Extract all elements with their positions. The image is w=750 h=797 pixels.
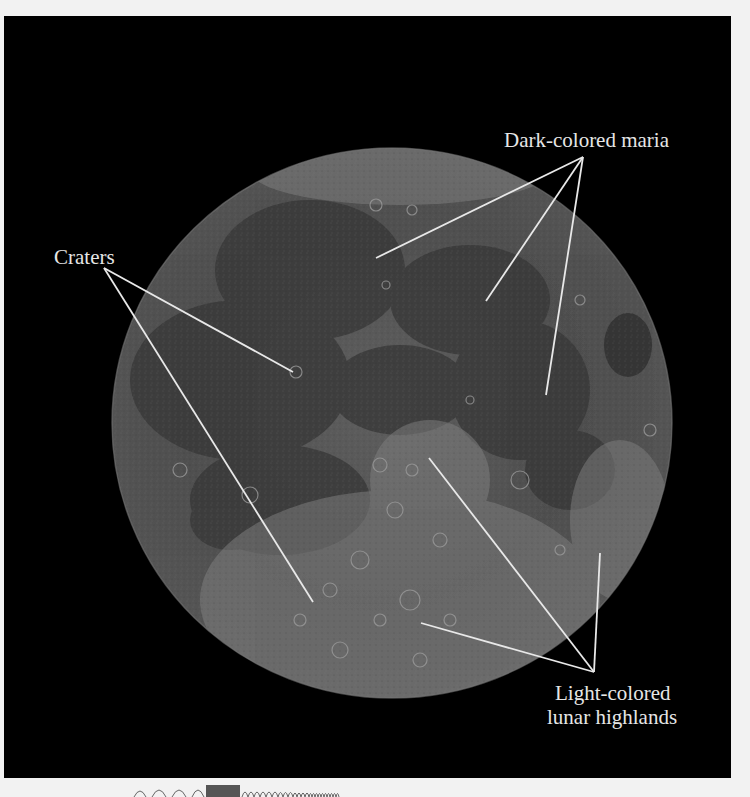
wave-spectrum-strip bbox=[130, 783, 345, 797]
label-highlands-line1: Light-colored bbox=[555, 682, 670, 704]
label-highlands-line2: lunar highlands bbox=[547, 706, 677, 728]
label-craters: Craters bbox=[54, 246, 115, 268]
moon-disk bbox=[100, 135, 680, 710]
moon-illustration bbox=[0, 0, 750, 797]
label-dark-maria: Dark-colored maria bbox=[504, 129, 669, 151]
